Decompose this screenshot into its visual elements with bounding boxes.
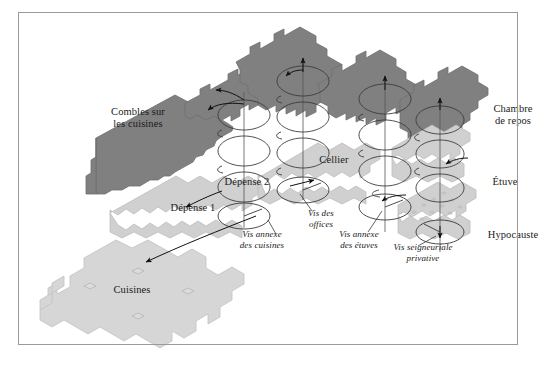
- floor-plan-depense-1-tail: [110, 213, 242, 238]
- floor-plan-etuve-tail: [392, 158, 464, 182]
- floor-plan-cellier-tail: [258, 178, 366, 204]
- label-depense-2: Dépense 2: [225, 176, 270, 188]
- label-vis-seigneuriale-privative: Vis seigneuriale privative: [393, 242, 452, 263]
- label-cuisines: Cuisines: [114, 284, 151, 296]
- diagram-page: Combles sur les cuisines Dépense 2 Celli…: [0, 0, 554, 365]
- label-etuve: Étuve: [493, 176, 518, 188]
- arrow-to-offices-mid: [290, 180, 314, 186]
- floor-plan-combles-notch: [86, 138, 96, 194]
- axonometric-scene: [0, 0, 554, 365]
- label-cellier: Cellier: [319, 154, 348, 166]
- label-combles-sur-les-cuisines: Combles sur les cuisines: [111, 106, 165, 131]
- stair-landing-link: [277, 132, 282, 139]
- label-chambre-de-repos: Chambre de repos: [493, 103, 532, 128]
- label-vis-des-offices: Vis des offices: [308, 208, 334, 229]
- label-hypocauste: Hypocauste: [488, 229, 539, 241]
- label-vis-annexe-des-etuves: Vis annexe des étuves: [339, 229, 379, 250]
- floor-plan-hypocauste-tail: [398, 215, 470, 239]
- stair-landing-link: [218, 166, 223, 173]
- label-depense-1: Dépense 1: [171, 202, 216, 214]
- stair-base-tread: [244, 209, 262, 216]
- stair-landing-link: [372, 190, 380, 197]
- label-vis-annexe-des-cuisines: Vis annexe des cuisines: [240, 229, 284, 250]
